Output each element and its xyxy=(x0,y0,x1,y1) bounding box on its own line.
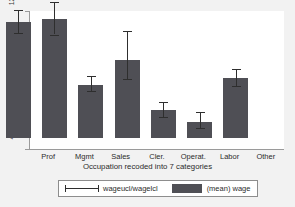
bar-swatch-icon xyxy=(172,184,202,193)
error-bar-line xyxy=(54,2,55,35)
error-bar-cap-upper xyxy=(50,2,59,3)
error-bar-cap-lower xyxy=(14,33,23,34)
error-bar-line xyxy=(91,76,92,92)
chart-figure: 4681012 ProfMgmtSalesCler.Operat.LaborOt… xyxy=(0,0,295,207)
error-bar-line xyxy=(127,31,128,79)
legend-entry-ci: wageucl/wagelcl xyxy=(59,181,158,196)
error-bar-cap-upper xyxy=(123,31,132,32)
bar xyxy=(6,22,31,138)
x-tick-label: Cler. xyxy=(139,152,175,161)
legend-entry-mean: (mean) wage xyxy=(158,181,251,196)
x-tick-label: Prof xyxy=(30,152,66,161)
x-tick-label: Mgmt xyxy=(66,152,102,161)
error-bar-cap-upper xyxy=(87,76,96,77)
error-bar-cap-upper xyxy=(159,102,168,103)
x-tick-label: Labor xyxy=(211,152,247,161)
error-bar-line xyxy=(163,102,164,118)
error-bar-icon xyxy=(65,184,99,193)
x-tick-label: Other xyxy=(248,152,284,161)
chart-legend: wageucl/wagelcl (mean) wage xyxy=(58,180,258,197)
error-bar-cap-upper xyxy=(196,112,205,113)
error-bar-cap-lower xyxy=(232,86,241,87)
bar xyxy=(78,85,103,138)
error-bar-cap-upper xyxy=(232,69,241,70)
error-bar-cap-lower xyxy=(50,35,59,36)
error-bar-cap-lower xyxy=(196,128,205,129)
error-bar-line xyxy=(236,69,237,86)
x-axis-title: Occupation recoded into 7 categories xyxy=(0,162,295,171)
error-bar-line xyxy=(18,10,19,32)
bar xyxy=(42,19,67,138)
error-bar-line xyxy=(200,112,201,128)
plot-area xyxy=(0,0,295,207)
error-bar-cap-lower xyxy=(123,79,132,80)
legend-label-ci: wageucl/wagelcl xyxy=(103,184,158,193)
error-bar-cap-lower xyxy=(87,91,96,92)
error-bar-cap-upper xyxy=(14,10,23,11)
x-tick-label: Operat. xyxy=(175,152,211,161)
x-tick-label: Sales xyxy=(103,152,139,161)
legend-label-mean: (mean) wage xyxy=(207,184,251,193)
error-bar-cap-lower xyxy=(159,117,168,118)
